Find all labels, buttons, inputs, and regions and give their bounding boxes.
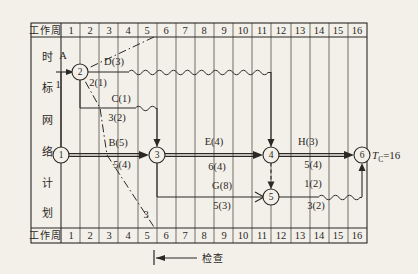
week-tick: 11 — [257, 230, 267, 241]
week-tick: 16 — [352, 25, 363, 36]
side-title-char: 标 — [42, 81, 53, 94]
week-tick: 4 — [125, 25, 131, 36]
check-label: 检查 — [202, 252, 224, 264]
week-tick: 12 — [276, 230, 287, 241]
activity-H-name: H(3) — [298, 136, 318, 148]
week-tick: 2 — [87, 230, 92, 241]
week-tick: 5 — [144, 230, 149, 241]
week-tick: 6 — [163, 25, 168, 36]
week-tick: 2 — [87, 25, 92, 36]
node-number: 3 — [155, 150, 160, 160]
week-tick: 15 — [333, 25, 344, 36]
side-title-char: 网 — [42, 114, 53, 126]
week-tick: 5 — [144, 25, 149, 36]
week-tick: 1 — [68, 25, 73, 36]
week-tick: 9 — [221, 25, 226, 36]
week-tick: 3 — [106, 230, 111, 241]
week-tick: 16 — [352, 230, 363, 241]
bottom-row-label: 工作周 — [29, 230, 62, 241]
activity-B-name: B(5) — [108, 137, 128, 149]
side-title-char: 络 — [42, 145, 53, 158]
week-tick: 9 — [221, 230, 226, 241]
side-title-char: 划 — [42, 207, 53, 219]
node-number: 4 — [269, 150, 274, 160]
week-tick: 13 — [295, 230, 306, 241]
week-tick: 7 — [182, 230, 187, 241]
activity-G-times: 5(3) — [213, 200, 231, 212]
activity-A-duration: 1 — [55, 79, 60, 90]
node-number: 5 — [269, 192, 274, 202]
activity-I-name: 1(2) — [304, 178, 322, 190]
activity-H-times: 5(4) — [304, 159, 322, 171]
activity-C-name: C(1) — [111, 93, 131, 105]
activity-C-times: 3(2) — [108, 112, 126, 124]
tc-value: =16 — [383, 149, 401, 161]
side-title-char: 时 — [42, 51, 53, 63]
week-tick: 10 — [238, 230, 249, 241]
activity-E-times: 6(4) — [208, 161, 226, 173]
week-tick: 8 — [201, 25, 206, 36]
activity-D-times: 2(1) — [89, 77, 107, 89]
week-tick: 10 — [238, 25, 249, 36]
side-title-char: 计 — [42, 177, 53, 189]
week-tick: 11 — [257, 25, 267, 36]
time-scaled-network-diagram: 工作周 1 2 3 4 5 6 7 8 9 10 11 12 13 14 15 … — [0, 0, 418, 274]
node-6: 6 — [354, 147, 370, 163]
week-tick: 13 — [295, 25, 306, 36]
week-tick: 3 — [106, 25, 111, 36]
week-tick: 14 — [314, 230, 325, 241]
front-line-week-mark: 3 — [143, 209, 148, 220]
week-tick: 14 — [314, 25, 325, 36]
activity-D-name: D(3) — [104, 56, 124, 68]
scanned-network-plan-figure: 工作周 1 2 3 4 5 6 7 8 9 10 11 12 13 14 15 … — [0, 0, 418, 274]
node-number: 2 — [78, 67, 83, 77]
node-4: 4 — [263, 147, 279, 163]
week-tick: 4 — [125, 230, 131, 241]
top-row-label: 工作周 — [29, 25, 62, 36]
activity-I-times: 3(2) — [307, 200, 325, 212]
activity-E-name: E(4) — [205, 136, 224, 148]
week-tick: 1 — [68, 230, 73, 241]
node-5: 5 — [263, 189, 279, 205]
week-tick: 8 — [201, 230, 206, 241]
node-number: 6 — [360, 150, 365, 160]
week-tick: 7 — [182, 25, 187, 36]
week-tick: 6 — [163, 230, 168, 241]
week-tick: 12 — [276, 25, 287, 36]
activity-A-name: A — [59, 50, 67, 61]
activity-G-name: G(8) — [212, 180, 232, 192]
node-1: 1 — [53, 147, 69, 163]
node-2: 2 — [72, 64, 88, 80]
node-3: 3 — [149, 147, 165, 163]
week-tick: 15 — [333, 230, 344, 241]
node-number: 1 — [59, 150, 64, 160]
activity-B-times: 5(4) — [113, 159, 131, 171]
